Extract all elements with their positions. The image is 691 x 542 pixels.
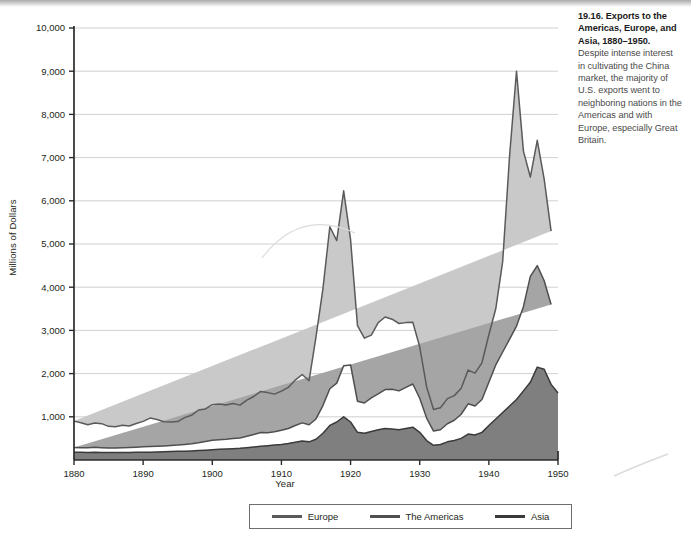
legend-item-asia[interactable]: Asia [495, 511, 549, 522]
figure-caption: 19.16. Exports to the Americas, Europe, … [578, 10, 682, 146]
svg-text:8,000: 8,000 [41, 109, 65, 120]
legend-swatch-the-americas [370, 515, 400, 518]
y-axis-title: Millions of Dollars [7, 183, 18, 293]
chart-area: 1,0002,0003,0004,0005,0006,0007,0008,000… [0, 0, 570, 495]
y-axis-tick-labels: 1,0002,0003,0004,0005,0006,0007,0008,000… [36, 22, 65, 422]
legend-item-europe[interactable]: Europe [272, 511, 339, 522]
svg-text:3,000: 3,000 [41, 325, 65, 336]
area-series-group [74, 71, 558, 460]
svg-text:2,000: 2,000 [41, 368, 65, 379]
svg-text:9,000: 9,000 [41, 66, 65, 77]
chart-legend: Europe The Americas Asia [249, 504, 572, 529]
page-scan-smudge [612, 452, 672, 478]
legend-swatch-asia [495, 515, 525, 518]
svg-text:4,000: 4,000 [41, 282, 65, 293]
legend-label-europe: Europe [308, 511, 339, 522]
stacked-area-chart: 1,0002,0003,0004,0005,0006,0007,0008,000… [0, 0, 570, 495]
svg-text:5,000: 5,000 [41, 238, 65, 249]
svg-text:1,000: 1,000 [41, 411, 65, 422]
x-axis-title: Year [0, 478, 570, 489]
figure-19-16: 1,0002,0003,0004,0005,0006,0007,0008,000… [0, 0, 570, 542]
svg-text:7,000: 7,000 [41, 152, 65, 163]
legend-label-the-americas: The Americas [406, 511, 464, 522]
legend-swatch-europe [272, 515, 302, 518]
legend-label-asia: Asia [531, 511, 549, 522]
svg-text:10,000: 10,000 [36, 22, 65, 33]
figure-caption-body: Despite intense interest in cultivating … [578, 48, 682, 145]
figure-caption-number: 19.16. [578, 11, 603, 21]
legend-item-the-americas[interactable]: The Americas [370, 511, 464, 522]
svg-text:6,000: 6,000 [41, 195, 65, 206]
